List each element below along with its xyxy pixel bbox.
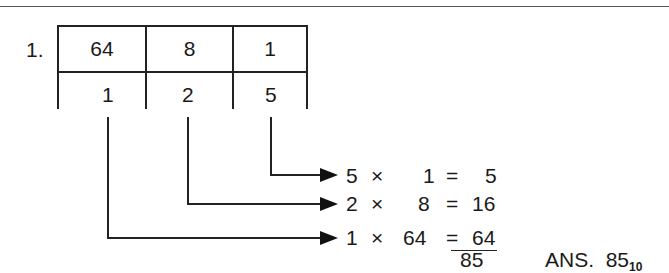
problem-number: 1. <box>26 38 44 62</box>
answer-value: 85 <box>606 248 629 271</box>
answer-label: ANS. <box>545 248 594 271</box>
digit-cell: 1 <box>102 83 114 107</box>
digit-cell: 2 <box>182 83 194 107</box>
place-value-cell: 64 <box>59 37 145 61</box>
arrow-right-icon <box>320 231 338 245</box>
digit-cell: 5 <box>265 83 277 107</box>
place-value-cell: 1 <box>234 37 306 61</box>
top-rule <box>0 6 669 7</box>
table-top-border <box>57 25 308 27</box>
answer-base: 10 <box>629 260 642 273</box>
arrow-right-icon <box>320 168 338 182</box>
table-right-border <box>306 25 308 109</box>
sum-total: 85 <box>460 248 483 272</box>
place-value-cell: 8 <box>147 37 232 61</box>
table-middle-border <box>57 71 308 73</box>
answer: ANS. 8510 <box>545 248 642 273</box>
arrow-right-icon <box>320 197 338 211</box>
